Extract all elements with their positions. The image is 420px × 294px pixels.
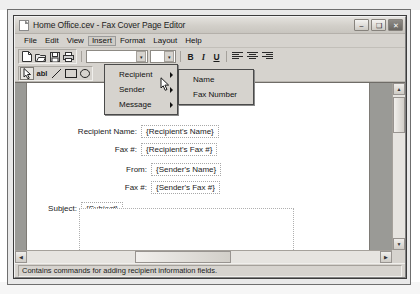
horizontal-scroll-thumb[interactable] bbox=[135, 251, 231, 263]
vertical-scroll-thumb[interactable] bbox=[393, 97, 405, 133]
bold-button[interactable]: B bbox=[185, 52, 196, 62]
toolbar-separator-3 bbox=[226, 51, 227, 62]
menu-file[interactable]: File bbox=[20, 36, 41, 46]
menu-view[interactable]: View bbox=[63, 36, 88, 46]
document-client-area: Recipient Name: {Recipient's Name} Fax #… bbox=[15, 82, 405, 263]
scroll-left-button[interactable]: ◀ bbox=[15, 251, 27, 263]
submenu-arrow-icon bbox=[170, 87, 173, 93]
field-row-recipient-fax: Fax #: {Recipient's Fax #} bbox=[41, 143, 277, 155]
menu-item-message[interactable]: Message bbox=[105, 97, 177, 112]
menu-item-sender[interactable]: Sender bbox=[105, 82, 177, 97]
submenu-item-name[interactable]: Name bbox=[179, 72, 253, 87]
recipient-submenu: Name Fax Number bbox=[178, 69, 254, 105]
minimize-icon: – bbox=[360, 22, 364, 29]
close-button[interactable]: ✕ bbox=[388, 19, 403, 31]
underline-button[interactable]: U bbox=[211, 52, 222, 62]
caret-right-icon: ▶ bbox=[384, 254, 388, 260]
font-size-combo[interactable]: ▾ bbox=[150, 50, 176, 63]
toolbar-separator-1 bbox=[81, 51, 82, 62]
font-name-combo[interactable]: ▾ bbox=[86, 50, 148, 63]
caret-left-icon: ◀ bbox=[19, 254, 23, 260]
print-button[interactable] bbox=[62, 51, 75, 63]
field-row-sender-name: From: {Sender's Name} bbox=[41, 163, 277, 175]
menu-item-message-label: Message bbox=[119, 100, 151, 109]
screenshot-root: Home Office.cev - Fax Cover Page Editor … bbox=[0, 0, 420, 294]
close-icon: ✕ bbox=[393, 22, 399, 29]
insert-dropdown-menu: Recipient Sender Message bbox=[104, 64, 178, 115]
select-pointer-tool[interactable] bbox=[20, 67, 34, 80]
value-recipient-fax[interactable]: {Recipient's Fax #} bbox=[141, 143, 217, 156]
toolbar-separator-2 bbox=[180, 51, 181, 62]
menu-help[interactable]: Help bbox=[181, 36, 205, 46]
italic-button[interactable]: I bbox=[198, 52, 209, 62]
menu-insert[interactable]: Insert bbox=[88, 36, 116, 46]
fax-cover-page-editor-window: Home Office.cev - Fax Cover Page Editor … bbox=[14, 16, 406, 278]
label-sender-fax: Fax #: bbox=[41, 183, 151, 192]
label-recipient-name: Recipient Name: bbox=[41, 127, 141, 136]
value-sender-fax[interactable]: {Sender's Fax #} bbox=[151, 181, 220, 194]
line-tool[interactable] bbox=[50, 67, 63, 79]
ellipse-tool[interactable] bbox=[78, 67, 91, 79]
scroll-right-button[interactable]: ▶ bbox=[380, 251, 392, 263]
menu-item-recipient[interactable]: Recipient bbox=[105, 67, 177, 82]
text-tool[interactable]: abl bbox=[35, 67, 49, 79]
scrollbar-corner bbox=[392, 250, 405, 263]
menu-item-recipient-label: Recipient bbox=[119, 70, 152, 79]
horizontal-scrollbar[interactable]: ◀ ▶ bbox=[15, 250, 392, 263]
label-recipient-fax: Fax #: bbox=[41, 145, 141, 154]
message-body-box[interactable] bbox=[79, 208, 294, 250]
align-left-button[interactable] bbox=[231, 51, 244, 63]
caret-down-icon: ▼ bbox=[397, 241, 402, 247]
label-sender-name: From: bbox=[41, 165, 151, 174]
menu-layout[interactable]: Layout bbox=[149, 36, 181, 46]
fax-cover-page[interactable]: Recipient Name: {Recipient's Name} Fax #… bbox=[26, 83, 370, 250]
window-title: Home Office.cev - Fax Cover Page Editor bbox=[33, 20, 354, 30]
title-bar: Home Office.cev - Fax Cover Page Editor … bbox=[15, 17, 405, 34]
submenu-arrow-icon bbox=[170, 102, 173, 108]
chevron-down-icon[interactable]: ▾ bbox=[164, 51, 174, 62]
document-viewport: Recipient Name: {Recipient's Name} Fax #… bbox=[15, 83, 392, 250]
file-button-group bbox=[18, 49, 77, 64]
new-document-button[interactable] bbox=[20, 51, 33, 63]
caret-up-icon: ▲ bbox=[397, 86, 402, 92]
draw-tool-group: abl bbox=[18, 66, 93, 81]
align-center-button[interactable] bbox=[246, 51, 259, 63]
document-icon bbox=[19, 20, 29, 31]
standard-toolbar: ▾ ▾ B I U bbox=[15, 48, 405, 65]
menu-format[interactable]: Format bbox=[116, 36, 149, 46]
scroll-down-button[interactable]: ▼ bbox=[393, 238, 405, 250]
value-recipient-name[interactable]: {Recipient's Name} bbox=[141, 125, 219, 138]
chevron-down-icon[interactable]: ▾ bbox=[136, 51, 146, 62]
submenu-item-fax-number[interactable]: Fax Number bbox=[179, 87, 253, 102]
field-row-recipient-name: Recipient Name: {Recipient's Name} bbox=[41, 125, 277, 137]
scroll-up-button[interactable]: ▲ bbox=[393, 83, 405, 95]
rectangle-tool[interactable] bbox=[64, 67, 77, 79]
window-controls: – ❑ ✕ bbox=[354, 19, 403, 31]
vertical-scrollbar[interactable]: ▲ ▼ bbox=[392, 83, 405, 250]
label-subject: Subject: bbox=[27, 204, 81, 213]
field-row-sender-fax: Fax #: {Sender's Fax #} bbox=[41, 181, 277, 193]
save-button[interactable] bbox=[48, 51, 61, 63]
maximize-button[interactable]: ❑ bbox=[371, 19, 386, 31]
value-sender-name[interactable]: {Sender's Name} bbox=[151, 163, 221, 176]
minimize-button[interactable]: – bbox=[354, 19, 369, 31]
maximize-icon: ❑ bbox=[376, 22, 382, 29]
status-message: Contains commands for adding recipient i… bbox=[18, 265, 402, 277]
menu-edit[interactable]: Edit bbox=[41, 36, 63, 46]
align-right-button[interactable] bbox=[261, 51, 274, 63]
menu-item-sender-label: Sender bbox=[119, 85, 145, 94]
open-folder-button[interactable] bbox=[34, 51, 47, 63]
status-bar: Contains commands for adding recipient i… bbox=[15, 263, 405, 277]
submenu-arrow-icon bbox=[170, 72, 173, 78]
menu-bar: File Edit View Insert Format Layout Help bbox=[15, 34, 405, 48]
